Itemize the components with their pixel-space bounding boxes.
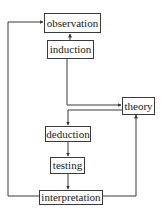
node-label: theory <box>124 101 152 112</box>
node-observation: observation <box>44 13 101 33</box>
node-interpretation: interpretation <box>39 190 103 205</box>
node-theory: theory <box>122 97 155 115</box>
node-label: induction <box>50 44 92 55</box>
edge-induction-theory <box>67 59 121 105</box>
edge-interpretation-theory <box>103 115 136 196</box>
node-label: deduction <box>46 129 89 140</box>
edge-theory-deduction <box>68 110 122 125</box>
node-label: interpretation <box>41 192 100 203</box>
node-testing: testing <box>50 157 85 174</box>
node-induction: induction <box>47 40 94 59</box>
node-deduction: deduction <box>45 126 91 142</box>
node-label: observation <box>47 18 98 29</box>
node-label: testing <box>53 160 82 171</box>
edge-interpretation-observation <box>8 22 43 196</box>
